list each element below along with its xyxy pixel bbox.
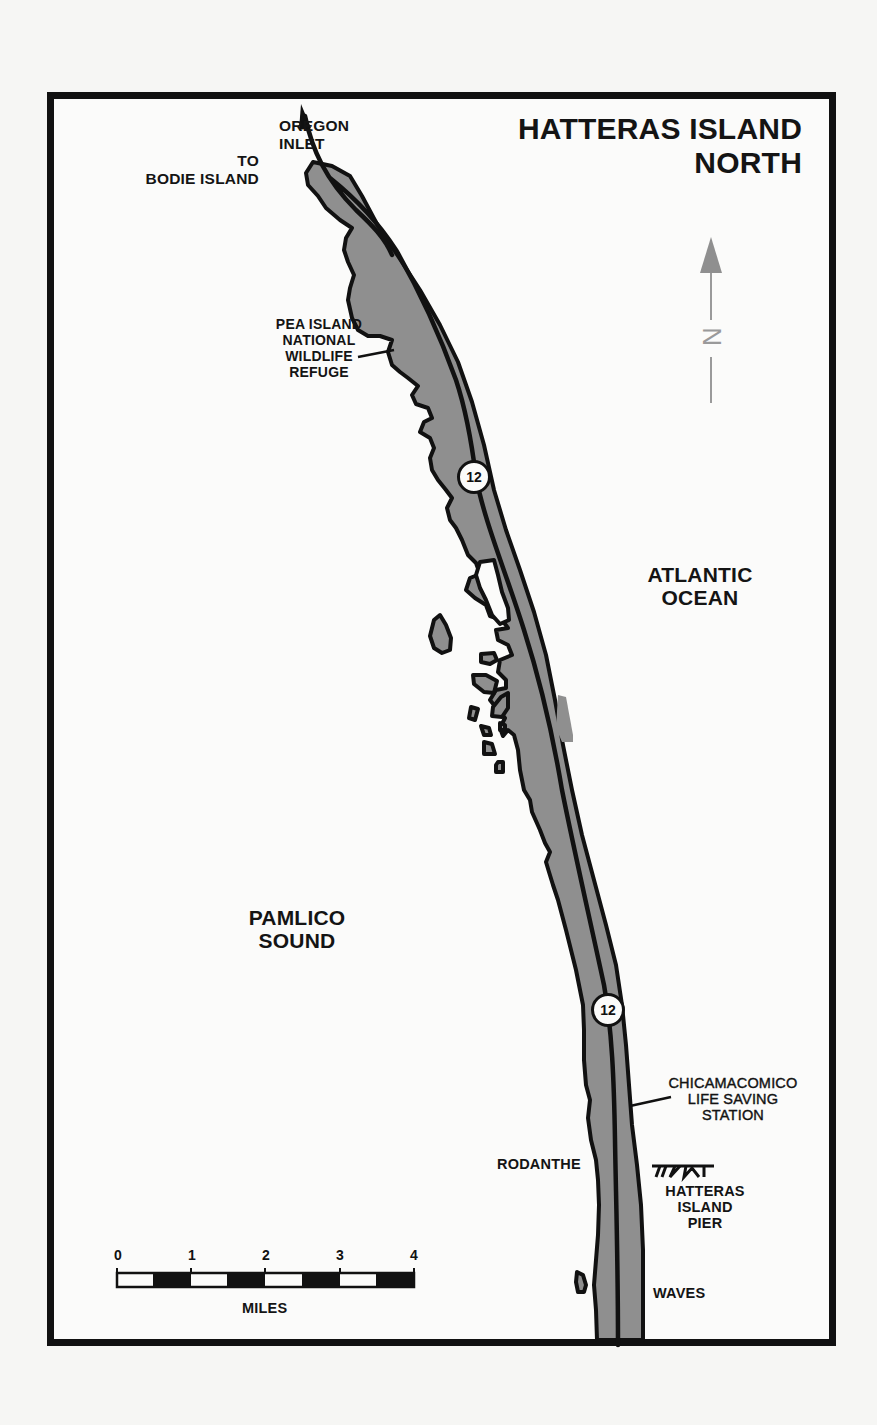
north-label: N: [698, 327, 725, 346]
label-pamlico-line2: SOUND: [237, 929, 357, 952]
label-oregon-inlet: OREGON INLET: [279, 117, 349, 153]
label-pier-line3: PIER: [655, 1215, 755, 1231]
label-chicamacomico-line2: LIFE SAVING: [648, 1091, 818, 1107]
label-chicamacomico-station: CHICAMACOMICO LIFE SAVING STATION: [648, 1075, 818, 1123]
label-pier-line1: HATTERAS: [655, 1183, 755, 1199]
label-oregon-inlet-line1: OREGON: [279, 117, 349, 135]
label-pea-island-refuge: PEA ISLAND NATIONAL WILDLIFE REFUGE: [263, 316, 375, 380]
label-pamlico-sound: PAMLICO SOUND: [237, 906, 357, 952]
scale-tick-1: 1: [188, 1247, 196, 1263]
route-12-shield-north: 12: [457, 460, 491, 494]
label-chicamacomico-line1: CHICAMACOMICO: [648, 1075, 818, 1091]
label-hatteras-island-pier: HATTERAS ISLAND PIER: [655, 1183, 755, 1231]
label-pea-island-line4: REFUGE: [263, 364, 375, 380]
scale-tick-4: 4: [410, 1247, 418, 1263]
label-atlantic-ocean: ATLANTIC OCEAN: [640, 563, 760, 609]
label-pea-island-line3: WILDLIFE: [263, 348, 375, 364]
label-to-bodie-line2: BODIE ISLAND: [134, 170, 259, 188]
label-oregon-inlet-line2: INLET: [279, 135, 349, 153]
scale-tick-2: 2: [262, 1247, 270, 1263]
label-to-bodie-line1: TO: [134, 152, 259, 170]
label-pea-island-line2: NATIONAL: [263, 332, 375, 348]
scale-tick-3: 3: [336, 1247, 344, 1263]
label-to-bodie-island: TO BODIE ISLAND: [134, 152, 259, 188]
label-pamlico-line1: PAMLICO: [237, 906, 357, 929]
north-arrow-icon: [700, 237, 722, 403]
pier-icon: [652, 1166, 714, 1177]
route-12-shield-south: 12: [591, 993, 625, 1027]
label-chicamacomico-line3: STATION: [648, 1107, 818, 1123]
label-rodanthe: RODANTHE: [497, 1156, 581, 1172]
scale-tick-0: 0: [114, 1247, 122, 1263]
label-pea-island-line1: PEA ISLAND: [263, 316, 375, 332]
scale-unit-label: MILES: [242, 1300, 287, 1316]
label-waves: WAVES: [653, 1285, 705, 1301]
map-title: HATTERAS ISLAND NORTH: [518, 112, 802, 180]
scale-bar: [117, 1268, 414, 1287]
map-title-line1: HATTERAS ISLAND: [518, 112, 802, 146]
label-pier-line2: ISLAND: [655, 1199, 755, 1215]
map-title-line2: NORTH: [518, 146, 802, 180]
label-atlantic-line2: OCEAN: [640, 586, 760, 609]
label-atlantic-line1: ATLANTIC: [640, 563, 760, 586]
